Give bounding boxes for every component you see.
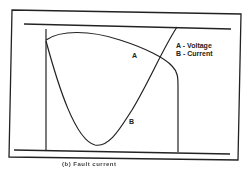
waveform-diagram [0, 0, 246, 170]
curve-b-current [46, 27, 177, 145]
top-rail [24, 24, 231, 29]
curve-a-label: A [132, 52, 137, 60]
bottom-rail [14, 150, 230, 154]
curve-b-label: B [129, 118, 134, 126]
frame-border [9, 10, 241, 160]
legend-current: B - Current [176, 50, 213, 58]
legend-voltage: A - Voltage [176, 42, 212, 50]
figure-caption: (b) Fault current [62, 161, 117, 167]
curve-a-voltage [46, 33, 178, 153]
